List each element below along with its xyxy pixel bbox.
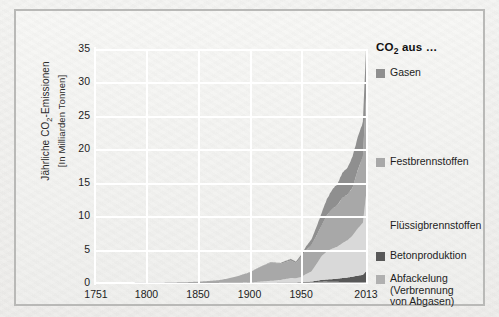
gridline-horizontal [96, 149, 366, 151]
gridline-horizontal [96, 116, 366, 118]
legend: CO2 aus … GasenFestbrennstoffenFlüssigbr… [368, 35, 499, 303]
y-tick-label: 20 [44, 142, 90, 154]
x-tick-label: 1950 [289, 288, 312, 300]
legend-item-label: Flüssigbrennstoffen [390, 220, 481, 232]
y-axis-ticks: 05101520253035 [42, 49, 90, 283]
y-tick-label: 25 [44, 109, 90, 121]
legend-item[interactable]: Festbrennstoffen [376, 156, 469, 168]
legend-swatch-icon [376, 158, 385, 167]
gridline-vertical [198, 49, 200, 283]
legend-swatch-icon [376, 222, 385, 231]
plot-area [96, 49, 366, 283]
legend-title: CO2 aus … [376, 41, 438, 56]
gridline-horizontal [96, 183, 366, 185]
legend-item-label: Abfackelung (Verbrennung von Abgasen) [390, 273, 454, 308]
gridline-horizontal [96, 49, 366, 51]
legend-swatch-icon [376, 69, 385, 78]
x-tick-label: 1900 [238, 288, 261, 300]
gridline-vertical [301, 49, 303, 283]
x-tick-label: 1800 [135, 288, 158, 300]
legend-swatch-icon [376, 252, 385, 261]
y-tick-label: 30 [44, 75, 90, 87]
legend-item[interactable]: Flüssigbrennstoffen [376, 220, 481, 232]
legend-swatch-icon [376, 275, 385, 284]
y-tick-label: 5 [44, 243, 90, 255]
x-tick-label: 1850 [186, 288, 209, 300]
gridline-horizontal [96, 82, 366, 84]
legend-item-label: Betonproduktion [390, 250, 466, 262]
y-tick-label: 10 [44, 209, 90, 221]
legend-item-label: Gasen [390, 67, 421, 79]
legend-item[interactable]: Abfackelung (Verbrennung von Abgasen) [376, 273, 454, 308]
gridline-horizontal [96, 216, 366, 218]
x-axis-ticks: 175118001850190019502013 [96, 288, 372, 304]
legend-item[interactable]: Betonproduktion [376, 250, 466, 262]
gridline-vertical [250, 49, 252, 283]
x-tick-label: 1751 [84, 288, 107, 300]
y-tick-label: 15 [44, 176, 90, 188]
chart-figure: Jährliche CO2-Emissionen [In Milliarden … [0, 0, 499, 317]
y-tick-label: 0 [44, 276, 90, 288]
legend-item-label: Festbrennstoffen [390, 156, 469, 168]
chart-frame: Jährliche CO2-Emissionen [In Milliarden … [14, 9, 485, 306]
y-tick-label: 35 [44, 42, 90, 54]
legend-item[interactable]: Gasen [376, 67, 421, 79]
gridline-vertical [146, 49, 148, 283]
gridline-horizontal [96, 250, 366, 252]
